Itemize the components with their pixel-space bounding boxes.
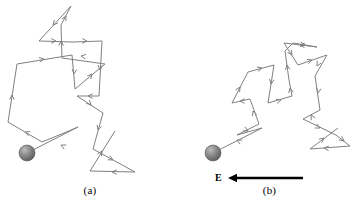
direction-arrowhead [324,146,329,151]
electric-field-arrow [228,174,303,182]
electron-start-sphere-a [19,145,35,161]
direction-arrowhead [82,39,87,44]
electron-path-diagram-a [0,0,180,180]
panel-b-caption: (b) [180,184,359,196]
direction-arrowhead [72,69,77,74]
random-walk-trace-b [213,42,350,153]
panel-b: E (b) [180,0,359,208]
direction-arrowhead [61,145,66,149]
electron-start-sphere-b [205,145,221,161]
electron-path-diagram-b [180,0,359,200]
electron-trajectory-b [213,43,350,153]
figure-root: (a) E (b) [0,0,359,208]
direction-arrowhead [276,99,281,103]
electric-field-label: E [215,172,222,183]
direction-arrowhead [311,115,315,120]
panel-a: (a) [0,0,180,208]
direction-arrowhead [237,140,242,144]
direction-arrowhead [81,54,86,59]
panel-a-caption: (a) [0,184,180,196]
electric-field-arrow-head [228,174,237,182]
